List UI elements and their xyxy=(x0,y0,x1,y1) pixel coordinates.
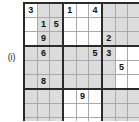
sudoku-cell-r8c7[interactable] xyxy=(102,104,115,118)
sudoku-cell-r7c8[interactable] xyxy=(115,89,128,104)
sudoku-cell-r4c3[interactable] xyxy=(50,46,63,61)
sudoku-cell-r4c6[interactable]: 5 xyxy=(89,46,102,61)
sudoku-cell-r5c8[interactable]: 5 xyxy=(115,61,128,75)
cell-digit: 1 xyxy=(64,5,76,16)
sudoku-cell-r9c5[interactable] xyxy=(76,118,89,122)
sudoku-cell-r6c3[interactable] xyxy=(50,75,63,90)
sudoku-cell-r2c3[interactable]: 5 xyxy=(50,18,63,32)
sudoku-cell-r4c9[interactable] xyxy=(128,46,139,61)
sudoku-cell-r6c8[interactable] xyxy=(115,75,128,90)
cell-digit: 9 xyxy=(103,119,115,121)
sudoku-cell-r2c8[interactable] xyxy=(115,18,128,32)
sudoku-cell-r9c4[interactable] xyxy=(63,118,76,122)
sudoku-figure: (i) : 314159265358979 xyxy=(0,0,139,121)
sudoku-cell-r7c4[interactable] xyxy=(63,89,76,104)
sudoku-cell-r6c1[interactable] xyxy=(24,75,37,90)
sudoku-cell-r3c8[interactable] xyxy=(115,32,128,47)
sudoku-cell-r3c2[interactable]: 9 xyxy=(37,32,50,47)
sudoku-cell-r7c2[interactable] xyxy=(37,89,50,104)
sudoku-cell-r8c8[interactable] xyxy=(115,104,128,118)
sudoku-cell-r8c3[interactable] xyxy=(50,104,63,118)
sudoku-cell-r1c2[interactable] xyxy=(37,3,50,18)
sudoku-cell-r9c9[interactable] xyxy=(128,118,139,122)
sudoku-cell-r1c8[interactable] xyxy=(115,3,128,18)
sudoku-cell-r7c6[interactable] xyxy=(89,89,102,104)
sudoku-cell-r1c6[interactable]: 4 xyxy=(89,3,102,18)
sudoku-cell-r9c8[interactable] xyxy=(115,118,128,122)
sudoku-cell-r5c7[interactable] xyxy=(102,61,115,75)
sudoku-cell-r2c1[interactable] xyxy=(24,18,37,32)
sudoku-cell-r7c5[interactable]: 9 xyxy=(76,89,89,104)
sudoku-cell-r9c2[interactable] xyxy=(37,118,50,122)
sudoku-cell-r8c2[interactable] xyxy=(37,104,50,118)
sudoku-cell-r4c8[interactable] xyxy=(115,46,128,61)
sudoku-row: 92 xyxy=(24,32,139,47)
sudoku-cell-r5c4[interactable] xyxy=(63,61,76,75)
sudoku-row xyxy=(24,104,139,118)
sudoku-cell-r4c1[interactable] xyxy=(24,46,37,61)
sudoku-cell-r3c1[interactable] xyxy=(24,32,37,47)
cell-digit: 5 xyxy=(89,48,101,59)
sudoku-cell-r6c4[interactable] xyxy=(63,75,76,90)
cell-digit: 7 xyxy=(89,119,101,121)
sudoku-cell-r1c7[interactable] xyxy=(102,3,115,18)
sudoku-cell-r6c7[interactable] xyxy=(102,75,115,90)
sudoku-cell-r7c1[interactable] xyxy=(24,89,37,104)
cell-digit: 4 xyxy=(89,5,101,16)
sudoku-cell-r6c5[interactable] xyxy=(76,75,89,90)
sudoku-row: 79 xyxy=(24,118,139,122)
cell-digit: 8 xyxy=(38,76,50,87)
sudoku-cell-r1c9[interactable] xyxy=(128,3,139,18)
sudoku-table[interactable]: 314159265358979 xyxy=(23,2,139,121)
sudoku-cell-r7c9[interactable] xyxy=(128,89,139,104)
sudoku-cell-r2c4[interactable] xyxy=(63,18,76,32)
cell-digit: 1 xyxy=(38,19,50,30)
sudoku-cell-r4c5[interactable] xyxy=(76,46,89,61)
sudoku-cell-r3c7[interactable]: 2 xyxy=(102,32,115,47)
sudoku-cell-r2c9[interactable] xyxy=(128,18,139,32)
sudoku-cell-r2c7[interactable] xyxy=(102,18,115,32)
sudoku-cell-r5c1[interactable] xyxy=(24,61,37,75)
cell-digit: 5 xyxy=(50,19,62,30)
sudoku-cell-r8c6[interactable] xyxy=(89,104,102,118)
sudoku-cell-r6c2[interactable]: 8 xyxy=(37,75,50,90)
sudoku-cell-r2c6[interactable] xyxy=(89,18,102,32)
sudoku-cell-r7c7[interactable] xyxy=(102,89,115,104)
sudoku-cell-r9c7[interactable]: 9 xyxy=(102,118,115,122)
sudoku-cell-r7c3[interactable] xyxy=(50,89,63,104)
sudoku-cell-r2c2[interactable]: 1 xyxy=(37,18,50,32)
sudoku-cell-r5c6[interactable] xyxy=(89,61,102,75)
sudoku-cell-r5c2[interactable] xyxy=(37,61,50,75)
sudoku-cell-r8c5[interactable] xyxy=(76,104,89,118)
sudoku-cell-r1c4[interactable]: 1 xyxy=(63,3,76,18)
sudoku-cell-r6c6[interactable] xyxy=(89,75,102,90)
sudoku-grid[interactable]: 314159265358979 xyxy=(23,2,128,119)
sudoku-cell-r1c1[interactable]: 3 xyxy=(24,3,37,18)
sudoku-cell-r3c9[interactable] xyxy=(128,32,139,47)
sudoku-cell-r5c9[interactable] xyxy=(128,61,139,75)
sudoku-cell-r1c3[interactable] xyxy=(50,3,63,18)
sudoku-cell-r8c4[interactable] xyxy=(63,104,76,118)
sudoku-cell-r3c4[interactable] xyxy=(63,32,76,47)
sudoku-cell-r3c3[interactable] xyxy=(50,32,63,47)
sudoku-cell-r9c6[interactable]: 7 xyxy=(89,118,102,122)
sudoku-cell-r4c7[interactable]: 3 xyxy=(102,46,115,61)
sudoku-row: 15 xyxy=(24,18,139,32)
sudoku-cell-r2c5[interactable] xyxy=(76,18,89,32)
sudoku-cell-r9c1[interactable] xyxy=(24,118,37,122)
sudoku-cell-r3c6[interactable] xyxy=(89,32,102,47)
puzzle-label: (i) xyxy=(2,52,21,63)
cell-digit: 5 xyxy=(116,62,128,73)
sudoku-cell-r9c3[interactable] xyxy=(50,118,63,122)
sudoku-cell-r6c9[interactable] xyxy=(128,75,139,90)
sudoku-cell-r8c1[interactable] xyxy=(24,104,37,118)
sudoku-cell-r5c3[interactable] xyxy=(50,61,63,75)
cell-digit: 3 xyxy=(25,5,37,16)
sudoku-cell-r1c5[interactable] xyxy=(76,3,89,18)
sudoku-cell-r3c5[interactable] xyxy=(76,32,89,47)
sudoku-cell-r5c5[interactable] xyxy=(76,61,89,75)
cell-digit: 3 xyxy=(103,48,115,59)
sudoku-cell-r4c2[interactable]: 6 xyxy=(37,46,50,61)
sudoku-cell-r8c9[interactable] xyxy=(128,104,139,118)
sudoku-cell-r4c4[interactable] xyxy=(63,46,76,61)
